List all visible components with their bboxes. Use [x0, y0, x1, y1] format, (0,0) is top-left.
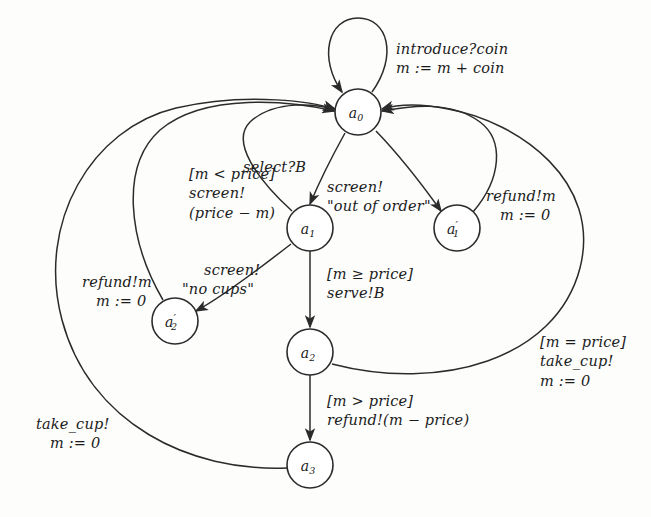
label-m-less-price-line-2: screen!	[189, 184, 275, 203]
label-refund-a1-prime-line-1: refund!m	[486, 187, 556, 206]
label-introduce-line-2: m := m + coin	[396, 59, 508, 78]
state-a2-prime-label: a′2	[165, 312, 177, 332]
label-refund-a1-prime: refund!m m := 0	[486, 187, 556, 226]
label-refund-difference-line-2: refund!(m − price)	[327, 411, 469, 430]
label-serve: [m ≥ price] serve!B	[327, 265, 413, 304]
state-a3[interactable]: a3	[287, 442, 333, 488]
state-a2[interactable]: a2	[287, 329, 333, 375]
label-out-of-order-line-1: screen!	[327, 178, 431, 197]
label-take-cup-equal-line-2: take_cup!	[540, 352, 626, 371]
label-out-of-order: screen! "out of order"	[327, 178, 431, 217]
label-refund-difference: [m > price] refund!(m − price)	[327, 392, 469, 431]
state-a1-prime-label: a′1	[447, 219, 459, 239]
label-take-cup-a3: take_cup! m := 0	[36, 415, 109, 454]
label-refund-difference-line-1: [m > price]	[327, 392, 469, 411]
label-take-cup-equal-line-3: m := 0	[540, 372, 626, 391]
label-refund-a1-prime-line-2: m := 0	[486, 206, 556, 225]
label-refund-a2-prime-line-2: m := 0	[82, 292, 152, 311]
label-m-less-price-line-1: [m < price]	[189, 165, 275, 184]
label-no-cups-line-1: screen!	[182, 261, 260, 280]
label-serve-line-2: serve!B	[327, 284, 413, 303]
label-out-of-order-line-2: "out of order"	[327, 197, 431, 216]
state-a2-prime[interactable]: a′2	[152, 298, 198, 344]
label-m-less-price-line-3: (price − m)	[189, 204, 275, 223]
diagram-canvas: a0 a1 a′1 a′2 a2 a3 introduce?coin m := …	[0, 0, 651, 517]
label-take-cup-a3-line-2: m := 0	[36, 434, 109, 453]
label-refund-a2-prime: refund!m m := 0	[82, 273, 152, 312]
state-a0[interactable]: a0	[335, 89, 381, 135]
state-a1-prime[interactable]: a′1	[434, 205, 480, 251]
label-take-cup-a3-line-1: take_cup!	[36, 415, 109, 434]
label-refund-a2-prime-line-1: refund!m	[82, 273, 152, 292]
label-no-cups-line-2: "no cups"	[182, 280, 260, 299]
edge-introduce-self-loop	[329, 18, 387, 92]
label-take-cup-equal: [m = price] take_cup! m := 0	[540, 333, 626, 391]
label-serve-line-1: [m ≥ price]	[327, 265, 413, 284]
label-introduce-line-1: introduce?coin	[396, 40, 508, 59]
label-introduce: introduce?coin m := m + coin	[396, 40, 508, 79]
label-take-cup-equal-line-1: [m = price]	[540, 333, 626, 352]
label-no-cups: screen! "no cups"	[182, 261, 260, 300]
label-m-less-price: [m < price] screen! (price − m)	[189, 165, 275, 223]
